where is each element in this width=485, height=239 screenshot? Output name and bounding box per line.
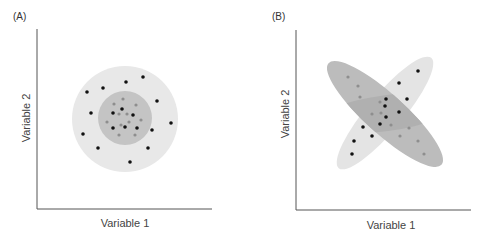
data-point-black xyxy=(155,99,159,103)
data-point-black xyxy=(350,152,354,156)
data-point-black xyxy=(111,126,115,130)
data-point-black xyxy=(378,122,382,126)
data-point-black xyxy=(383,104,387,108)
data-point-gray xyxy=(398,134,401,137)
data-point-gray xyxy=(133,133,136,136)
data-point-black xyxy=(120,107,124,111)
region-inner xyxy=(98,91,152,145)
data-point-black xyxy=(370,134,374,138)
data-point-black xyxy=(146,146,150,150)
data-point-gray xyxy=(389,123,392,126)
data-point-gray xyxy=(379,111,382,114)
data-point-black xyxy=(85,90,89,94)
data-point-black xyxy=(123,125,127,129)
data-point-gray xyxy=(127,120,130,123)
data-point-black xyxy=(384,115,388,119)
data-point-black xyxy=(405,97,409,101)
data-point-gray xyxy=(422,152,425,155)
figure: (A) Variable 1 Variable 2 (B) Variable 1… xyxy=(0,0,485,239)
panel-b-x-axis-label: Variable 1 xyxy=(367,219,416,231)
data-point-gray xyxy=(356,84,359,87)
data-point-gray xyxy=(119,123,122,126)
data-point-black xyxy=(96,146,100,150)
data-point-black xyxy=(101,86,105,90)
data-point-black xyxy=(89,111,93,115)
panel-a-label: (A) xyxy=(13,11,26,22)
data-point-gray xyxy=(105,120,108,123)
panel-b: (B) Variable 1 Variable 2 xyxy=(272,11,471,231)
data-point-gray xyxy=(358,95,361,98)
data-point-gray xyxy=(370,112,373,115)
data-point-black xyxy=(169,121,173,125)
data-point-black xyxy=(111,111,115,115)
data-point-black xyxy=(135,126,139,130)
panel-b-y-axis-label: Variable 2 xyxy=(279,90,291,139)
data-point-gray xyxy=(378,100,381,103)
data-point-gray xyxy=(121,97,124,100)
data-point-gray xyxy=(346,75,349,78)
data-point-black xyxy=(128,160,132,164)
panel-a-y-axis-label: Variable 2 xyxy=(20,94,32,143)
data-point-black xyxy=(361,125,365,129)
data-point-gray xyxy=(117,112,120,115)
data-point-black xyxy=(397,81,401,85)
data-point-black xyxy=(352,139,356,143)
data-point-gray xyxy=(134,103,137,106)
data-point-black xyxy=(141,75,145,79)
data-point-gray xyxy=(407,126,410,129)
data-point-gray xyxy=(125,112,128,115)
data-point-gray xyxy=(117,133,120,136)
data-point-black xyxy=(384,97,388,101)
data-point-gray xyxy=(416,139,419,142)
data-point-gray xyxy=(139,118,142,121)
panel-b-regions xyxy=(315,46,455,179)
data-point-black xyxy=(397,110,401,114)
data-point-black xyxy=(81,132,85,136)
data-point-gray xyxy=(112,102,115,105)
data-point-black xyxy=(131,113,135,117)
data-point-black xyxy=(150,128,154,132)
panel-b-label: (B) xyxy=(272,11,285,22)
data-point-black xyxy=(416,69,420,73)
panel-a-x-axis-label: Variable 1 xyxy=(101,217,150,229)
data-point-black xyxy=(124,80,128,84)
panel-a: (A) Variable 1 Variable 2 xyxy=(13,11,212,229)
